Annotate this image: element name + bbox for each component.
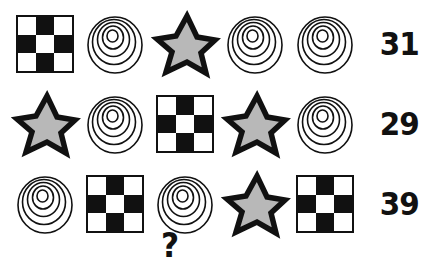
unknown-marker: ? — [152, 228, 189, 262]
row-total-value: 31 — [379, 28, 418, 60]
puzzle-cell[interactable] — [80, 164, 150, 244]
puzzle-cell[interactable] — [10, 84, 80, 164]
puzzle-cell[interactable] — [220, 164, 290, 244]
puzzle-cell[interactable] — [220, 84, 290, 164]
concentric-circles-icon — [294, 93, 356, 155]
star-icon — [154, 13, 216, 75]
star-icon — [224, 93, 286, 155]
row-total-value: 39 — [379, 188, 418, 220]
puzzle-cell[interactable] — [10, 4, 80, 84]
row-total-cell: 31 — [360, 4, 423, 84]
puzzle-row: 29 — [0, 84, 418, 164]
puzzle-cell[interactable] — [80, 84, 150, 164]
row-total-cell: 39 — [360, 164, 423, 244]
concentric-circles-icon — [84, 13, 146, 75]
concentric-circles-icon — [224, 13, 286, 75]
checkerboard-icon — [156, 95, 214, 153]
puzzle-cell[interactable] — [10, 164, 80, 244]
puzzle-cell[interactable] — [80, 4, 150, 84]
puzzle-cell[interactable] — [290, 4, 360, 84]
puzzle-cell[interactable] — [290, 164, 360, 244]
concentric-circles-icon — [294, 13, 356, 75]
star-icon — [224, 173, 286, 235]
puzzle-cell[interactable] — [150, 84, 220, 164]
puzzle-row: 31 — [0, 4, 418, 84]
checkerboard-icon — [296, 175, 354, 233]
checkerboard-icon — [16, 15, 74, 73]
row-total-cell: 29 — [360, 84, 423, 164]
concentric-circles-icon — [14, 173, 76, 235]
star-icon — [14, 93, 76, 155]
puzzle-cell[interactable] — [150, 4, 220, 84]
concentric-circles-icon — [84, 93, 146, 155]
puzzle-cell[interactable] — [290, 84, 360, 164]
row-total-value: 29 — [379, 108, 418, 140]
puzzle-row: 39 — [0, 164, 418, 244]
puzzle-cell[interactable] — [220, 4, 290, 84]
checkerboard-icon — [86, 175, 144, 233]
